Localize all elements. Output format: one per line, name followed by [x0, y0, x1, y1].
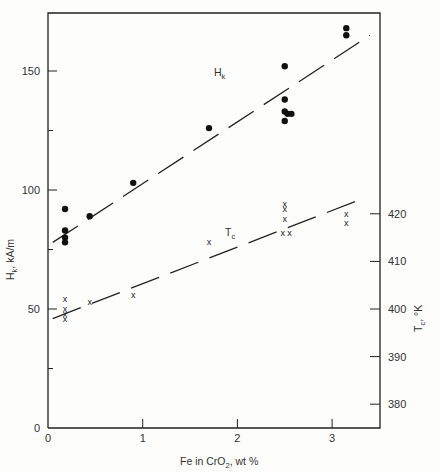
- tc-data-point: x: [281, 228, 286, 238]
- hk-data-point: [86, 213, 92, 219]
- hk-data-point: [206, 125, 212, 131]
- y-tick-label: 150: [22, 65, 40, 77]
- tc-fit-line: [53, 200, 361, 319]
- hk-data-point: [62, 239, 68, 245]
- tc-data-point: x: [87, 297, 92, 307]
- axis-ticks: 0123050100150380390400410420: [22, 65, 407, 444]
- tc-data-point: x: [63, 294, 68, 304]
- tc-data-point: x: [283, 204, 288, 214]
- y2-tick-label: 390: [388, 351, 406, 363]
- x-axis-title: Fe in CrO2, wt %: [180, 455, 258, 470]
- hk-series-label: Hk: [214, 66, 226, 81]
- chart: 0123050100150380390400410420 xxxxxxxxxxx…: [0, 0, 440, 472]
- hk-data-point: [282, 63, 288, 69]
- hk-fit-line: [53, 35, 370, 242]
- y2-tick-label: 400: [388, 303, 406, 315]
- y-tick-label: 0: [34, 422, 40, 434]
- y2-axis-title: Tc, °K: [412, 305, 427, 332]
- tc-data-point: x: [344, 218, 349, 228]
- tc-data-point: x: [283, 214, 288, 224]
- hk-data-point: [288, 111, 294, 117]
- tc-data-point: x: [207, 237, 212, 247]
- hk-data-point: [62, 227, 68, 233]
- x-tick-label: 3: [329, 432, 335, 444]
- y-axis-title: Hk, kA/m: [4, 239, 19, 280]
- hk-data-point: [130, 180, 136, 186]
- data-points: xxxxxxxxxxxxxx: [62, 25, 350, 324]
- tc-data-point: x: [131, 290, 136, 300]
- y2-tick-label: 420: [388, 208, 406, 220]
- x-tick-label: 2: [234, 432, 240, 444]
- x-tick-label: 0: [45, 432, 51, 444]
- x-tick-label: 1: [140, 432, 146, 444]
- y-tick-label: 100: [22, 184, 40, 196]
- y2-tick-label: 380: [388, 398, 406, 410]
- tc-series-label: Tc: [225, 226, 235, 241]
- fit-lines: [53, 35, 370, 318]
- hk-data-point: [282, 96, 288, 102]
- hk-data-point: [343, 25, 349, 31]
- tc-data-point: x: [344, 209, 349, 219]
- hk-data-point: [282, 118, 288, 124]
- y-tick-label: 50: [28, 303, 40, 315]
- hk-data-point: [343, 32, 349, 38]
- y2-tick-label: 410: [388, 255, 406, 267]
- tc-data-point: x: [287, 228, 292, 238]
- hk-data-point: [62, 206, 68, 212]
- tc-data-point: x: [63, 314, 68, 324]
